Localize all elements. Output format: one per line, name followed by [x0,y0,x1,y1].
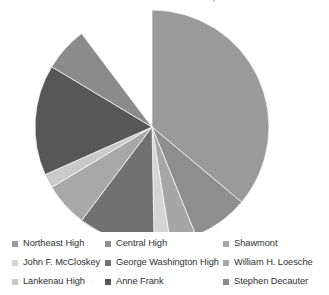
chart-legend: Northeast HighCentral HighShawmontJohn F… [0,234,329,292]
legend-item-label: Lankenau High [23,276,85,287]
legend-swatch-icon [223,279,229,285]
legend-item[interactable]: William H. Loesche [222,253,329,272]
legend-item[interactable]: John F. McCloskey [0,253,104,272]
legend-item[interactable]: Anne Frank [104,272,222,291]
legend-item[interactable]: Shawmont [222,234,329,253]
legend-swatch-icon [12,241,18,247]
legend-item-label: Central High [116,238,167,249]
figure-caption-text: The chart below shows the enrollment dis… [0,0,329,3]
figure-caption-clipped: The chart below shows the enrollment dis… [0,0,329,3]
pie-slice-group [35,10,269,232]
legend-item-label: John F. McCloskey [23,257,100,268]
legend-item-label: Northeast High [23,238,84,249]
legend-swatch-icon [223,260,229,266]
legend-item-label: Shawmont [234,238,278,249]
legend-swatch-icon [223,241,229,247]
legend-item[interactable]: Stephen Decauter [222,272,329,291]
legend-item[interactable]: Lankenau High [0,272,104,291]
legend-row: Northeast HighCentral HighShawmont [0,234,329,253]
legend-item[interactable]: Northeast High [0,234,104,253]
legend-item-label: Stephen Decauter [234,276,308,287]
legend-swatch-icon [12,279,18,285]
legend-row: Lankenau HighAnne FrankStephen Decauter [0,272,329,291]
legend-item[interactable]: Central High [104,234,222,253]
legend-item-label: George Washington High [116,257,219,268]
legend-swatch-icon [105,260,111,266]
legend-item-label: William H. Loesche [234,257,313,268]
pie-plot-area [0,8,329,232]
legend-row: John F. McCloskeyGeorge Washington HighW… [0,253,329,272]
legend-swatch-icon [105,279,111,285]
legend-swatch-icon [12,260,18,266]
pie-chart-figure: The chart below shows the enrollment dis… [0,0,329,295]
legend-item-label: Anne Frank [116,276,164,287]
legend-swatch-icon [105,241,111,247]
legend-item[interactable]: George Washington High [104,253,222,272]
pie-svg [0,8,329,232]
